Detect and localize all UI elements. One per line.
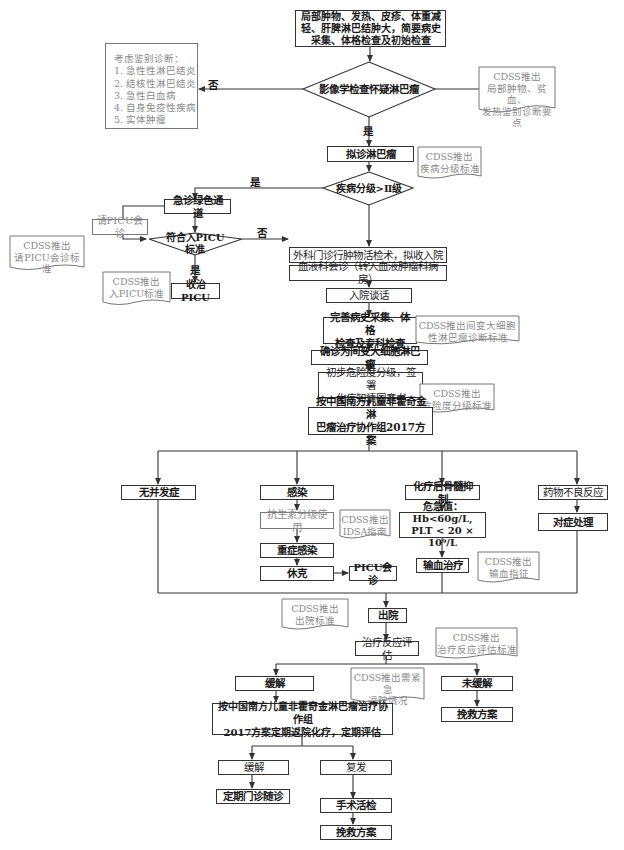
request-picu-consult-box: 请PICU会诊 <box>92 219 148 235</box>
adverse-reaction-box: 药物不良反应 <box>538 485 608 500</box>
myelosuppression-box: 化疗后骨髓抑制 <box>405 485 480 500</box>
antibiotics-box: 抗生素分级使用 <box>260 512 334 529</box>
cdss-picu-admit-note: CDSS推出 入PICU标准 <box>103 272 170 307</box>
edge-label-no: 否 <box>257 225 267 240</box>
flowchart-canvas: 否 是 是 否 是 局部肿物、发热、皮疹、体重减 轻、肝脾淋巴结肿大，简要病史 … <box>0 0 624 850</box>
complete-history-box: 完善病史采集、体格 检查及专科检查 <box>323 317 417 344</box>
cdss-discharge-note: CDSS推出 出院标准 <box>282 599 348 631</box>
shock-box: 休克 <box>260 566 334 581</box>
infection-box: 感染 <box>260 485 334 500</box>
suspected-lymphoma-box: 拟诊淋巴瘤 <box>327 146 414 162</box>
picu-consult-box: PICU会诊 <box>349 566 397 581</box>
admit-picu-box: 收治PICU <box>171 283 220 299</box>
cdss-response-eval-note: CDSS推出 治疗反应评估标准 <box>436 628 517 660</box>
cdss-grading-note: CDSS推出 疾病分级标准 <box>418 147 481 180</box>
decision-picu-criteria: 符合入PICU 标准 <box>160 231 230 257</box>
protocol-2017-box: 按中国南方儿童非霍奇金淋 巴瘤治疗协作组2017方案 <box>308 407 433 435</box>
hematology-consult-box: 血液科会诊（转入血液肿瘤科病房） <box>289 265 447 281</box>
transfusion-box: 输血治疗 <box>416 558 469 573</box>
cdss-alcl-diagnosis-note: CDSS推出间变大细胞 性淋巴瘤诊断标准 <box>416 316 519 346</box>
surgical-biopsy-box: 手术活检 <box>320 798 392 813</box>
no-remission-box: 未缓解 <box>441 676 513 691</box>
admission-talk-box: 入院谈话 <box>326 288 412 303</box>
salvage-plan-box: 挽救方案 <box>441 707 513 722</box>
cdss-differential-note: CDSS推出 局部肿物、贫血、 发热鉴别诊断要点 <box>479 67 555 114</box>
cdss-idsa-note: CDSS推出 IDSA指南 <box>340 510 390 540</box>
regular-followup-box: 定期门诊随诊 <box>216 789 290 804</box>
treatment-response-eval-box: 治疗反应评估 <box>355 641 419 656</box>
edge-label-yes: 是 <box>190 262 200 277</box>
edge-label-yes: 是 <box>250 174 260 189</box>
differential-diagnosis-box: 考虑鉴别诊断： 1. 急性性淋巴结炎 2. 结核性淋巴结炎 3. 急性白血病 4… <box>105 43 198 129</box>
regular-chemo-box: 按中国南方儿童非霍奇金淋巴瘤治疗协作组 2017方案定期返院化疗，定期评估 <box>212 703 393 735</box>
start-symptoms-box: 局部肿物、发热、皮疹、体重减 轻、肝脾淋巴结肿大，简要病史 采集、体格检查及初始… <box>295 10 446 47</box>
severe-infection-box: 重症感染 <box>260 543 334 558</box>
confirm-alcl-box: 确诊为间变大细胞淋巴瘤 <box>311 350 428 365</box>
decision-imaging: 影像学检查怀疑淋巴瘤 <box>308 80 430 98</box>
salvage-plan-box-2: 挽救方案 <box>320 825 392 840</box>
decision-disease-grade: 疾病分级>Ⅱ级 <box>330 181 408 196</box>
critical-values-box: 危急值：Hb<60g/L, PLT < 20 × 10⁹/L <box>399 512 486 538</box>
cdss-transfusion-note: CDSS推出 输血指征 <box>478 552 539 584</box>
remission-box: 缓解 <box>235 676 314 691</box>
discharge-box: 出院 <box>368 608 407 623</box>
emergency-green-channel-box: 急诊绿色通道 <box>164 199 231 214</box>
no-complication-box: 无并发症 <box>121 485 196 500</box>
symptomatic-treatment-box: 对症处理 <box>538 513 608 531</box>
remission-box-2: 缓解 <box>218 760 289 775</box>
edge-label-no: 否 <box>208 77 218 92</box>
relapse-box: 复发 <box>320 760 392 775</box>
edge-label-yes: 是 <box>363 123 373 138</box>
cdss-picu-consult-note: CDSS推出 请PICU会诊标准 <box>10 236 84 272</box>
